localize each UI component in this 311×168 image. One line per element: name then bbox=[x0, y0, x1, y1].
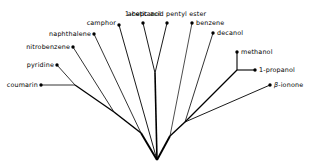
leaf-label-naphthalene: naphthalene bbox=[49, 31, 91, 38]
tree-branch-right-node-b-to-ionone bbox=[185, 85, 270, 122]
tree-diagram-figure: coumarinpyridinenitrobenzenenaphthalenec… bbox=[0, 0, 311, 168]
leaf-dot-coumarin bbox=[39, 83, 42, 86]
leaf-dot-acetic-acid-pentyl-ester bbox=[165, 21, 168, 24]
tree-branch-root-to-trunk-top bbox=[155, 73, 157, 160]
leaf-label-coumarin: coumarin bbox=[7, 82, 38, 89]
leaf-dot-naphthalene bbox=[92, 32, 95, 35]
leaf-dot-benzene bbox=[190, 21, 193, 24]
leaf-dot-nitrobenzene bbox=[71, 45, 74, 48]
leaf-label-methanol: methanol bbox=[241, 49, 273, 56]
leaf-label-propanol: 1-propanol bbox=[259, 67, 295, 74]
leaf-dot-methanol bbox=[235, 50, 238, 53]
ionone-suffix: -ionone bbox=[278, 81, 303, 89]
tree-branch-root-to-right-node-a bbox=[157, 136, 170, 160]
leaf-label-pyridine: pyridine bbox=[27, 62, 54, 69]
tree-branch-left-node-b-to-left-node-c bbox=[75, 85, 114, 112]
tree-branch-left-node-c-to-pyridine bbox=[57, 65, 75, 85]
leaf-dot-ionone bbox=[268, 83, 271, 86]
tree-branch-trunk-top-to-acetic-acid-pentyl-ester bbox=[155, 23, 167, 73]
leaf-dot-camphor bbox=[117, 23, 120, 26]
leaf-label-nitrobenzene: nitrobenzene bbox=[26, 44, 70, 51]
leaf-label-acetic-acid-pentyl-ester: acetic acid pentyl ester bbox=[128, 11, 207, 18]
tree-branch-root-to-camphor bbox=[119, 25, 157, 160]
leaf-label-decanol: decanol bbox=[217, 30, 243, 37]
tree-branch-root-to-left-node-a bbox=[141, 133, 157, 160]
tree-branch-left-node-a-to-left-node-b bbox=[114, 112, 141, 133]
leaf-dot-pyridine bbox=[55, 63, 58, 66]
tree-branch-trunk-top-to-heptanol bbox=[143, 23, 155, 73]
leaf-dot-decanol bbox=[211, 31, 214, 34]
branch-layer bbox=[41, 23, 270, 160]
tree-branch-left-node-b-to-nitrobenzene bbox=[73, 47, 114, 112]
leaf-dot-heptanol bbox=[141, 21, 144, 24]
tree-diagram-canvas bbox=[0, 0, 311, 168]
leaf-label-ionone: β-ionone bbox=[274, 82, 303, 89]
leaf-label-benzene: benzene bbox=[196, 20, 224, 27]
tree-branch-left-node-a-to-naphthalene bbox=[94, 34, 141, 133]
leaf-label-camphor: camphor bbox=[87, 20, 116, 27]
leaf-dot-propanol bbox=[253, 68, 256, 71]
